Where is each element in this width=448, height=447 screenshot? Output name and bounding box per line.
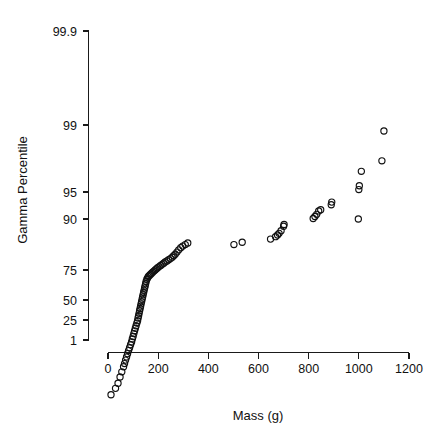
data-point	[356, 183, 362, 189]
data-point	[381, 128, 387, 134]
x-tick-label: 400	[198, 362, 219, 376]
y-tick-label: 95	[63, 186, 77, 200]
x-tick-label: 0	[105, 362, 112, 376]
y-axis-title: Gamma Percentile	[15, 136, 30, 244]
probability-plot-figure: 125507590959999.9 020040060080010001200 …	[0, 0, 448, 447]
y-tick-label: 50	[63, 294, 77, 308]
x-tick-label: 600	[248, 362, 269, 376]
data-point	[358, 168, 364, 174]
y-axis-group: 125507590959999.9	[53, 25, 89, 348]
data-point	[379, 158, 385, 164]
plot-canvas: 125507590959999.9 020040060080010001200 …	[0, 0, 448, 447]
y-tick-label: 25	[63, 314, 77, 328]
y-tick-label: 1	[70, 334, 77, 348]
x-axis-group: 020040060080010001200	[105, 353, 423, 376]
x-tick-label: 1200	[395, 362, 423, 376]
y-tick-label: 75	[63, 264, 77, 278]
data-point	[231, 241, 237, 247]
y-tick-label: 99.9	[53, 25, 77, 39]
x-axis-ticks: 020040060080010001200	[105, 353, 423, 376]
x-tick-label: 1000	[345, 362, 373, 376]
x-tick-label: 800	[298, 362, 319, 376]
y-tick-label: 99	[63, 119, 77, 133]
y-axis-ticks: 125507590959999.9	[53, 25, 89, 348]
data-point	[355, 216, 361, 222]
data-point	[108, 392, 114, 398]
data-point	[115, 380, 121, 386]
y-tick-label: 90	[63, 213, 77, 227]
x-axis-title: Mass (g)	[233, 408, 284, 423]
data-point	[239, 239, 245, 245]
data-point	[318, 207, 324, 213]
x-tick-label: 200	[148, 362, 169, 376]
scatter-data-layer	[108, 128, 387, 398]
